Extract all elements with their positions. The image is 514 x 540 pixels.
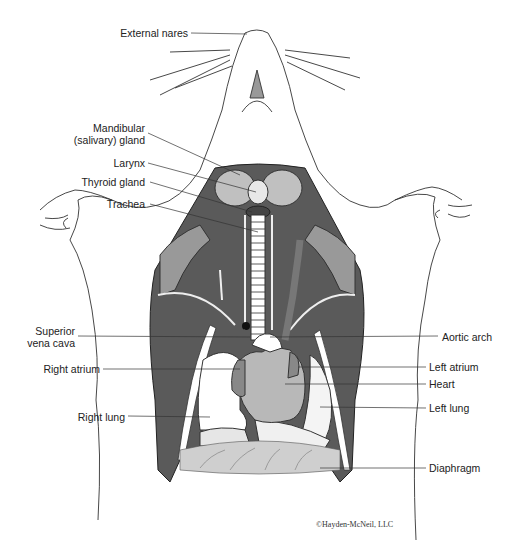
label-right-lung: Right lung (0, 411, 125, 423)
label-diaphragm: Diaphragm (429, 462, 480, 474)
label-mandibular-gland-line2: (salivary) gland (60, 134, 145, 146)
label-external-nares: External nares (100, 27, 188, 39)
label-larynx: Larynx (60, 157, 145, 169)
copyright-notice: ©Hayden-McNeil, LLC (316, 520, 393, 529)
label-mandibular-gland: Mandibular (60, 122, 145, 134)
label-left-lung: Left lung (429, 402, 469, 414)
vessel-opening (242, 322, 250, 330)
larynx (248, 180, 268, 204)
label-left-atrium: Left atrium (429, 361, 479, 373)
mandibular-gland-right (262, 170, 302, 206)
diaphragm (180, 441, 340, 474)
label-superior-vena-cava-line2: vena cava (0, 337, 75, 349)
rat-illustration (0, 0, 514, 540)
label-heart: Heart (429, 378, 455, 390)
label-thyroid-gland: Thyroid gland (60, 176, 145, 188)
trachea (251, 215, 265, 340)
label-right-atrium: Right atrium (0, 363, 100, 375)
label-superior-vena-cava: Superior (0, 325, 75, 337)
label-aortic-arch: Aortic arch (442, 331, 492, 343)
label-trachea: Trachea (60, 198, 145, 210)
rat-dissection-diagram: External nares Mandibular (salivary) gla… (0, 0, 514, 540)
